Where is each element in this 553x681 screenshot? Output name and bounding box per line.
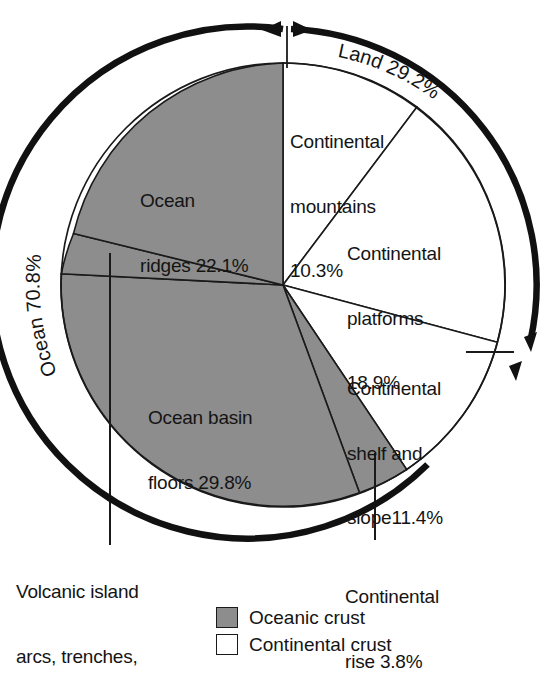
label-ocean-ridges: Ocean ridges 22.1%: [140, 147, 249, 319]
label-line: slope11.4%: [347, 507, 443, 529]
label-line: Continental: [347, 378, 443, 400]
legend-label-continental-crust: Continental crust: [249, 631, 392, 658]
label-line: floors 29.8%: [148, 472, 252, 494]
land-arrowhead-bottom: [524, 332, 537, 352]
label-line: platforms: [347, 308, 441, 330]
pie-chart-figure: Ocean 70.8% Land 29.2% Continental mount…: [0, 0, 553, 681]
legend-item-oceanic-crust[interactable]: Oceanic crust: [216, 604, 392, 631]
ocean-arrowhead-bottom: [509, 361, 522, 381]
label-line: Continental: [290, 131, 384, 153]
ocean-arrowhead: [262, 21, 281, 37]
arc-label-ocean: Ocean 70.8%: [21, 253, 60, 380]
land-arrowhead: [293, 21, 312, 37]
chart-legend: Oceanic crust Continental crust: [216, 604, 392, 658]
legend-label-oceanic-crust: Oceanic crust: [249, 604, 365, 631]
label-line: arcs, trenches,: [16, 646, 141, 668]
label-ocean-basin-floors: Ocean basin floors 29.8%: [148, 364, 252, 536]
legend-swatch-continental-crust: [216, 634, 238, 655]
label-line: Ocean: [140, 190, 249, 212]
label-volcanic-island-arcs: Volcanic island arcs, trenches, submarin…: [16, 538, 141, 681]
label-line: shelf and: [347, 443, 443, 465]
label-line: Ocean basin: [148, 407, 252, 429]
legend-swatch-oceanic-crust: [216, 607, 238, 628]
label-line: Volcanic island: [16, 581, 141, 603]
label-line: Continental: [347, 243, 441, 265]
label-continental-shelf-slope: Continental shelf and slope11.4%: [347, 335, 443, 572]
label-line: ridges 22.1%: [140, 255, 249, 277]
legend-item-continental-crust[interactable]: Continental crust: [216, 631, 392, 658]
